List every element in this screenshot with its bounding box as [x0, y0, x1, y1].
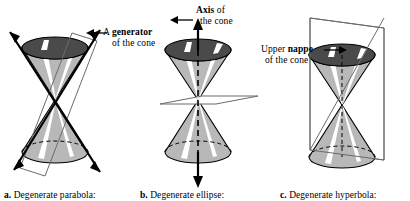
cutting-plane-horizontal	[160, 96, 258, 104]
label-axis-line2: the cone	[196, 16, 233, 27]
label-axis-keyword: Axis	[196, 5, 214, 15]
caption-c-text: Degenerate hyperbola:	[289, 190, 376, 200]
label-nappe-keyword: nappe	[288, 44, 313, 54]
axis-arrow-down	[193, 176, 203, 188]
caption-a-letter: a.	[4, 190, 11, 200]
axis-leader-arrow-icon	[170, 15, 194, 25]
caption-degenerate-parabola: a. Degenerate parabola:	[4, 190, 96, 201]
label-axis-line1: Axis of	[196, 5, 233, 16]
double-cone-diagram-c	[280, 0, 410, 201]
label-generator-line2: of the cone	[103, 38, 155, 49]
panel-degenerate-hyperbola: c. Degenerate hyperbola:	[280, 0, 410, 201]
panel-degenerate-ellipse: b. Degenerate ellipse:	[140, 0, 280, 201]
conic-sections-figure: a. Degenerate parabola:	[0, 0, 410, 201]
caption-b-text: Degenerate ellipse:	[150, 190, 224, 200]
nappe-leader-arrow-icon	[324, 45, 348, 55]
caption-b-letter: b.	[140, 190, 148, 200]
label-generator-keyword: generator	[112, 27, 152, 37]
caption-c-letter: c.	[280, 190, 287, 200]
label-nappe-line1: Upper nappe	[261, 44, 313, 55]
double-cone-diagram-b	[140, 0, 280, 201]
caption-degenerate-ellipse: b. Degenerate ellipse:	[140, 190, 224, 201]
label-generator-article: A	[103, 27, 112, 37]
lower-nappe-body	[22, 100, 88, 163]
label-generator-line1: A generator	[103, 27, 155, 38]
caption-a-text: Degenerate parabola:	[14, 190, 96, 200]
label-a-generator-of-the-cone: A generator of the cone	[103, 27, 155, 48]
label-axis-of-the-cone: Axis of the cone	[196, 5, 233, 26]
caption-degenerate-hyperbola: c. Degenerate hyperbola:	[280, 190, 376, 201]
upper-nappe-top-disc	[22, 37, 88, 59]
label-axis-preposition: of	[214, 5, 225, 15]
label-nappe-line2: of the cone	[261, 55, 313, 66]
label-nappe-qualifier: Upper	[261, 44, 288, 54]
label-upper-nappe-of-the-cone: Upper nappe of the cone	[261, 44, 313, 65]
